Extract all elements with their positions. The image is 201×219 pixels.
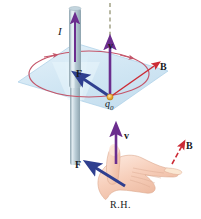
velocity-label-hand: v [124, 131, 129, 141]
figure-canvas [0, 0, 201, 219]
physics-figure: I v B F q0 v B F R.H. [0, 0, 201, 219]
field-arrow-hand [172, 144, 183, 164]
right-hand-label: R.H. [110, 200, 131, 210]
current-label: I [58, 26, 62, 37]
field-label-top: B [160, 62, 167, 72]
right-hand-icon [98, 144, 182, 199]
charge-subscript: 0 [110, 104, 114, 112]
force-label-hand: F [75, 160, 81, 170]
charge-label: q0 [105, 99, 114, 112]
current-wire-lower [70, 86, 80, 165]
force-label-top: F [76, 69, 82, 79]
field-label-hand: B [186, 141, 193, 151]
velocity-label-top: v [108, 41, 113, 51]
